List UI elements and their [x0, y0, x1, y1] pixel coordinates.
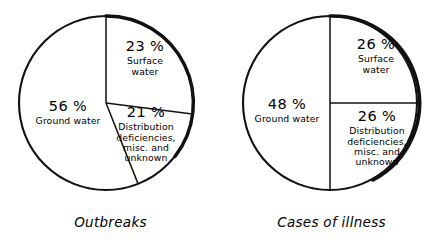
slice-percent: 56 % — [20, 98, 116, 114]
slice-label-surface-water: 26 % Surface water — [339, 36, 413, 75]
slice-name: Ground water — [20, 116, 116, 126]
slice-label-surface-water: 23 % Surface water — [108, 38, 182, 77]
slice-label-distribution-deficiencies: 26 % Distribution deficiencies, misc. an… — [335, 108, 419, 168]
slice-name: Surface water — [108, 56, 182, 77]
chart-outbreaks: 23 % Surface water 21 % Distribution def… — [0, 0, 221, 249]
slice-percent: 23 % — [108, 38, 182, 54]
chart-cases-of-illness: 26 % Surface water 26 % Distribution def… — [221, 0, 442, 249]
pie-chart-figure: 23 % Surface water 21 % Distribution def… — [0, 0, 442, 249]
slice-name: Distribution deficiencies, misc. and unk… — [103, 122, 189, 164]
slice-label-ground-water: 48 % Ground water — [239, 96, 335, 125]
slice-percent: 48 % — [239, 96, 335, 112]
chart-caption-cases-of-illness: Cases of illness — [221, 214, 442, 230]
slice-percent: 26 % — [335, 108, 419, 124]
slice-name: Surface water — [339, 54, 413, 75]
slice-percent: 26 % — [339, 36, 413, 52]
slice-name: Distribution deficiencies, misc. and unk… — [335, 126, 419, 168]
slice-name: Ground water — [239, 114, 335, 124]
slice-label-ground-water: 56 % Ground water — [20, 98, 116, 127]
chart-caption-outbreaks: Outbreaks — [0, 214, 221, 230]
